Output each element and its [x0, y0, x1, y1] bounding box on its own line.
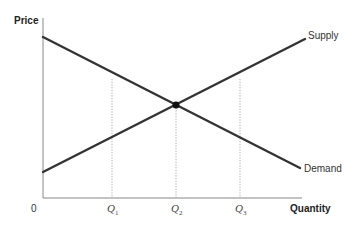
chart-canvas: Price Quantity 0 Supply Demand Q1Q2Q3	[0, 0, 361, 225]
demand-curve	[43, 37, 300, 168]
origin-label: 0	[31, 203, 37, 214]
supply-label: Supply	[308, 30, 339, 41]
x-tick-q3: Q3	[235, 202, 247, 217]
equilibrium-point	[173, 102, 180, 109]
x-axis-label: Quantity	[290, 203, 331, 214]
y-axis-label: Price	[14, 15, 39, 26]
x-tick-labels: Q1Q2Q3	[107, 202, 247, 217]
supply-demand-chart: Price Quantity 0 Supply Demand Q1Q2Q3	[0, 0, 361, 225]
x-tick-q2: Q2	[171, 202, 183, 217]
x-tick-q1: Q1	[107, 202, 119, 217]
guide-lines	[112, 79, 240, 198]
demand-label: Demand	[304, 163, 342, 174]
